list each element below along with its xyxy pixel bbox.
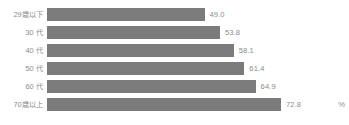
bar-container xyxy=(47,8,205,21)
bar-chart: 29歳以下49.030 代53.840 代58.150 代61.460 代64.… xyxy=(0,0,349,125)
bar xyxy=(47,44,234,57)
value-label: 58.1 xyxy=(239,44,254,57)
bar xyxy=(47,8,205,21)
bar xyxy=(47,98,281,111)
bar-row: 70歳以上72.8% xyxy=(0,98,349,111)
category-label: 60 代 xyxy=(0,80,43,93)
category-label: 30 代 xyxy=(0,26,43,39)
bar xyxy=(47,62,244,75)
bar-row: 40 代58.1 xyxy=(0,44,349,57)
value-label: 72.8 xyxy=(286,98,301,111)
bar-row: 30 代53.8 xyxy=(0,26,349,39)
unit-label: % xyxy=(338,98,345,111)
bar xyxy=(47,80,256,93)
value-label: 61.4 xyxy=(249,62,264,75)
bar-container xyxy=(47,44,234,57)
bar-container xyxy=(47,98,281,111)
category-label: 50 代 xyxy=(0,62,43,75)
bar-container xyxy=(47,62,244,75)
category-label: 29歳以下 xyxy=(0,8,43,21)
bar-row: 29歳以下49.0 xyxy=(0,8,349,21)
value-label: 49.0 xyxy=(210,8,225,21)
category-label: 70歳以上 xyxy=(0,98,43,111)
plot-area: 29歳以下49.030 代53.840 代58.150 代61.460 代64.… xyxy=(0,0,349,125)
bar-container xyxy=(47,26,220,39)
bar-row: 50 代61.4 xyxy=(0,62,349,75)
category-label: 40 代 xyxy=(0,44,43,57)
value-label: 53.8 xyxy=(225,26,240,39)
bar xyxy=(47,26,220,39)
bar-row: 60 代64.9 xyxy=(0,80,349,93)
value-label: 64.9 xyxy=(261,80,276,93)
bar-container xyxy=(47,80,256,93)
